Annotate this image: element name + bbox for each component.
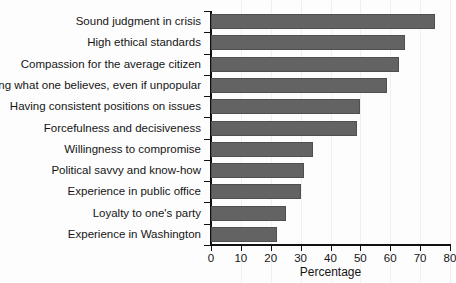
bar (211, 78, 387, 93)
bar-fill (211, 35, 405, 50)
category-label: Forcefulness and decisiveness (44, 121, 201, 136)
x-axis-tick-label: 0 (208, 251, 214, 265)
category-label: Experience in Washington (68, 227, 201, 242)
category-label: Sound judgment in crisis (76, 14, 201, 29)
y-axis-tick (204, 139, 210, 140)
bar-fill (211, 227, 277, 242)
x-axis-tick-label: 20 (264, 251, 277, 265)
x-axis-tick-label: 40 (324, 251, 337, 265)
category-label: Having consistent positions on issues (10, 99, 201, 114)
bar-fill (211, 14, 435, 29)
bar-fill (211, 206, 286, 221)
bar (211, 206, 286, 221)
x-axis-tick-label: 50 (354, 251, 367, 265)
bar (211, 163, 304, 178)
y-axis-tick (204, 32, 210, 33)
bar (211, 99, 360, 114)
category-label: Experience in public office (68, 184, 201, 199)
bar (211, 57, 399, 72)
gridline (450, 0, 451, 283)
y-axis-tick (204, 160, 210, 161)
bar-fill (211, 121, 357, 136)
x-axis-tick-label: 70 (414, 251, 427, 265)
bar (211, 121, 357, 136)
y-axis-tick (204, 54, 210, 55)
bar (211, 142, 313, 157)
y-axis-tick (204, 96, 210, 97)
y-axis-tick (204, 75, 210, 76)
x-axis-tick-label: 80 (444, 251, 456, 265)
category-axis-labels: Sound judgment in crisisHigh ethical sta… (0, 11, 206, 245)
bar (211, 184, 301, 199)
category-label: Willingness to compromise (64, 142, 201, 157)
category-label: Saying what one believes, even if unpopu… (0, 78, 201, 93)
bar (211, 14, 435, 29)
bar-fill (211, 99, 360, 114)
x-axis-tick-label: 60 (384, 251, 397, 265)
y-axis-tick (204, 181, 210, 182)
x-axis-tick-label: 10 (234, 251, 247, 265)
bar-fill (211, 142, 313, 157)
y-axis-tick (204, 11, 210, 12)
y-axis-tick (204, 117, 210, 118)
category-label: Loyalty to one's party (93, 206, 201, 221)
category-label: High ethical standards (87, 35, 201, 50)
bar (211, 227, 277, 242)
bar-fill (211, 184, 301, 199)
bar-series (211, 11, 450, 245)
x-axis-tick-label: 30 (294, 251, 307, 265)
category-label: Compassion for the average citizen (21, 57, 201, 72)
bar (211, 35, 405, 50)
category-label: Political savvy and know-how (51, 163, 201, 178)
x-axis-title: Percentage (211, 265, 450, 279)
plot-area (211, 11, 450, 245)
y-axis-tick (204, 224, 210, 225)
y-axis-tick (204, 202, 210, 203)
bar-fill (211, 163, 304, 178)
bar-fill (211, 78, 387, 93)
bar-fill (211, 57, 399, 72)
